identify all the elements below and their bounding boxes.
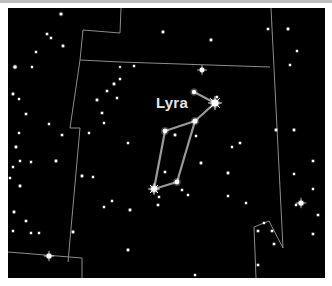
star: [88, 132, 90, 134]
star: [12, 166, 14, 168]
star: [13, 65, 17, 69]
star: [312, 188, 314, 190]
star: [181, 189, 183, 191]
star: [164, 171, 167, 174]
star: [275, 129, 278, 132]
star: [19, 185, 22, 188]
star: [216, 96, 218, 98]
star: [257, 264, 260, 267]
star: [111, 200, 113, 202]
star: [46, 33, 49, 36]
star: [227, 172, 230, 175]
star: [103, 206, 105, 208]
bright-star: [163, 129, 168, 134]
star: [231, 146, 233, 148]
star: [245, 202, 247, 204]
bright-star: [175, 180, 180, 185]
star: [158, 196, 160, 198]
star: [72, 231, 75, 234]
star: [38, 232, 40, 234]
star: [227, 195, 229, 197]
star: [162, 31, 165, 34]
star: [30, 232, 32, 234]
star: [61, 134, 64, 137]
star: [35, 51, 37, 53]
star: [119, 66, 121, 68]
star: [257, 230, 260, 233]
star: [295, 204, 297, 206]
star: [267, 28, 270, 31]
star: [18, 98, 20, 100]
star: [271, 230, 274, 233]
star: [273, 243, 276, 246]
bright-star: [192, 118, 197, 123]
star: [239, 142, 242, 145]
sky-map: Lyra: [8, 8, 325, 278]
star-chart-frame: Lyra: [0, 0, 332, 286]
star: [157, 204, 160, 207]
star: [312, 160, 315, 163]
boundary-line: [70, 8, 121, 128]
star: [15, 146, 18, 149]
star: [106, 90, 109, 93]
star: [25, 220, 28, 223]
star: [59, 12, 62, 15]
sky-canvas: [8, 8, 325, 278]
star: [195, 135, 197, 137]
star: [119, 78, 121, 80]
star: [210, 39, 213, 42]
star: [96, 99, 99, 102]
star: [187, 194, 189, 196]
boundary-line: [8, 252, 82, 258]
star: [113, 83, 116, 86]
star: [133, 65, 135, 67]
bright-star: [192, 90, 196, 94]
star: [101, 112, 104, 115]
star: [296, 50, 298, 52]
star: [293, 129, 296, 132]
frame-top-edge: [0, 0, 332, 3]
boundary-line: [68, 128, 80, 262]
star: [293, 173, 295, 175]
star: [9, 177, 11, 179]
star: [12, 230, 14, 232]
star: [92, 176, 94, 178]
star: [55, 160, 58, 163]
star: [317, 214, 320, 217]
star: [62, 45, 65, 48]
star: [50, 37, 52, 39]
star: [127, 142, 129, 144]
star: [174, 134, 177, 137]
star: [81, 175, 84, 178]
star: [18, 132, 20, 134]
star: [194, 274, 196, 276]
star: [129, 209, 132, 212]
star: [200, 162, 203, 165]
boundary-line: [80, 60, 270, 67]
star: [30, 161, 32, 163]
star: [289, 64, 291, 66]
star: [13, 211, 16, 214]
star: [48, 123, 50, 125]
star: [263, 222, 265, 224]
star: [287, 28, 290, 31]
star: [103, 122, 105, 124]
star: [127, 249, 130, 252]
star: [12, 93, 15, 96]
star: [19, 160, 21, 162]
star: [31, 66, 33, 68]
constellation-label: Lyra: [156, 94, 188, 111]
star: [25, 113, 28, 116]
star: [116, 97, 118, 99]
star: [312, 233, 315, 236]
